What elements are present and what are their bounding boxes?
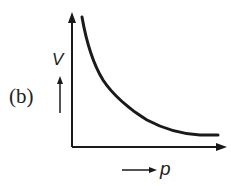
x-direction-arrowhead-icon xyxy=(149,167,157,173)
x-axis-arrowhead-icon xyxy=(216,143,227,151)
chart-canvas xyxy=(0,0,231,186)
y-axis-arrowhead-icon xyxy=(68,12,76,23)
data-curve xyxy=(82,17,218,135)
y-direction-arrowhead-icon xyxy=(57,76,63,84)
